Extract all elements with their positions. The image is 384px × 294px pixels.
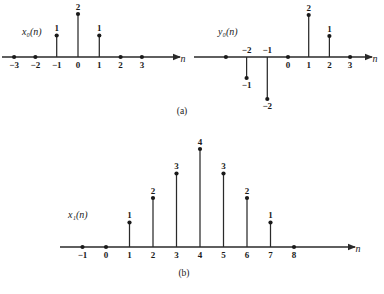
x-tick-label: −1 <box>78 250 88 260</box>
stem-point <box>119 55 123 59</box>
plot-y0-svg: n−1−2−2−1021123 <box>192 0 384 104</box>
x-tick-label: 3 <box>348 60 353 70</box>
stem-point <box>55 33 59 37</box>
x-tick-label: −2 <box>31 60 41 70</box>
point-value-label: 2 <box>151 186 156 196</box>
x-tick-label: 7 <box>268 250 273 260</box>
point-value-label: 1 <box>97 23 102 33</box>
stem-point <box>307 13 311 17</box>
point-value-label: 1 <box>127 210 132 220</box>
plot-y0-content: n−1−2−2−1021123 <box>194 3 378 112</box>
axis-name-label: n <box>373 53 378 64</box>
point-value-label: 4 <box>198 137 203 147</box>
x-tick-label: −3 <box>9 60 19 70</box>
caption-b: (b) <box>172 268 196 278</box>
stem-point <box>224 55 228 59</box>
plot-y0: n−1−2−2−1021123 <box>192 0 384 104</box>
point-value-label: 3 <box>174 161 179 171</box>
stem-point <box>268 220 272 224</box>
plot-x0: n−3−21−1201123 <box>0 0 192 104</box>
stem-point <box>174 171 178 175</box>
signal-label-x0: x₀(n) <box>22 26 42 37</box>
x-tick-label: 0 <box>104 250 109 260</box>
signal-label-y0: y₀(n) <box>218 26 238 37</box>
x-tick-label: 2 <box>151 250 156 260</box>
x-tick-label: 1 <box>306 60 311 70</box>
x-tick-label: 3 <box>174 250 179 260</box>
point-value-label: −1 <box>242 80 252 90</box>
x-tick-label: 2 <box>118 60 123 70</box>
point-value-label: 2 <box>76 2 81 12</box>
plot-x1: n−10112233443526178 <box>0 130 384 264</box>
x-tick-label: −1 <box>52 60 62 70</box>
x-tick-label: 0 <box>286 60 291 70</box>
axis-name-label: n <box>181 53 186 64</box>
caption-a: (a) <box>170 106 194 116</box>
x-tick-label: 1 <box>97 60 102 70</box>
stem-point <box>245 196 249 200</box>
x-tick-label: 4 <box>198 250 203 260</box>
x-tick-label: 6 <box>245 250 250 260</box>
stem-point <box>104 245 108 249</box>
x-tick-label: 2 <box>327 60 332 70</box>
signal-label-x1: x₁(n) <box>68 209 88 220</box>
x-tick-label: −2 <box>242 45 252 55</box>
stem-point <box>327 34 331 38</box>
stem-point <box>140 55 144 59</box>
stem-point <box>292 245 296 249</box>
plot-x1-content: n−10112233443526178 <box>60 137 361 261</box>
figure-stem-plots: n−3−21−1201123 x₀(n) n−1−2−2−1021123 y₀(… <box>0 0 384 294</box>
stem-point <box>80 245 84 249</box>
stem-point <box>221 171 225 175</box>
stem-point <box>348 55 352 59</box>
stem-point <box>198 147 202 151</box>
stem-point <box>97 33 101 37</box>
x-tick-label: 0 <box>76 60 81 70</box>
x-tick-label: −1 <box>262 45 272 55</box>
x-tick-label: 5 <box>221 250 226 260</box>
point-value-label: 1 <box>268 210 273 220</box>
point-value-label: 1 <box>54 23 59 33</box>
stem-point <box>12 55 16 59</box>
point-value-label: 2 <box>306 3 311 13</box>
plot-x1-svg: n−10112233443526178 <box>0 130 384 264</box>
point-value-label: 1 <box>327 24 332 34</box>
plot-x0-svg: n−3−21−1201123 <box>0 0 192 104</box>
point-value-label: 3 <box>221 161 226 171</box>
stem-point <box>151 196 155 200</box>
axis-name-label: n <box>356 243 361 254</box>
point-value-label: 2 <box>245 186 250 196</box>
x-tick-label: 1 <box>127 250 132 260</box>
stem-point <box>33 55 37 59</box>
stem-point <box>76 12 80 16</box>
x-tick-label: 8 <box>292 250 297 260</box>
stem-point <box>286 55 290 59</box>
point-value-label: −2 <box>262 101 272 111</box>
x-tick-label: 3 <box>140 60 145 70</box>
stem-point <box>127 220 131 224</box>
